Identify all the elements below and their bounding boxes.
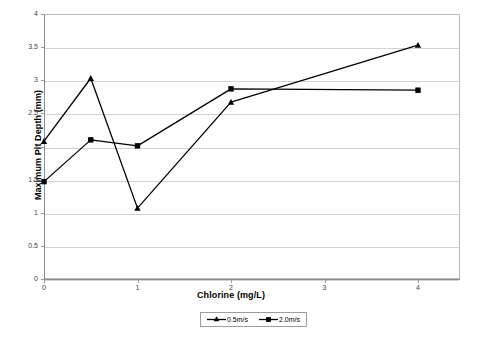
y-axis-tick-label: 2.5 xyxy=(2,109,38,117)
legend-item-series-0[interactable]: 0.5m/s xyxy=(207,315,248,324)
y-axis-tick-mark xyxy=(41,47,44,48)
x-axis-title: Chlorine (mg/L) xyxy=(44,290,418,300)
y-axis-tick-label: 4 xyxy=(2,10,38,18)
gridline xyxy=(45,81,459,82)
legend-marker-triangle-icon xyxy=(207,315,226,324)
y-axis-tick-mark xyxy=(41,246,44,247)
gridline xyxy=(45,48,459,49)
y-axis-tick-mark xyxy=(41,80,44,81)
gridline xyxy=(45,247,459,248)
y-axis-tick-label: 3.5 xyxy=(2,43,38,51)
x-axis-line xyxy=(44,279,460,280)
gridline xyxy=(45,214,459,215)
legend-item-series-1[interactable]: 2.0m/s xyxy=(259,315,300,324)
y-axis-tick-mark xyxy=(41,213,44,214)
legend-marker-square-icon xyxy=(259,315,278,324)
gridline xyxy=(45,148,459,149)
x-axis-tick-mark xyxy=(325,280,326,283)
y-axis-tick-label: 1.5 xyxy=(2,176,38,184)
y-axis-tick-label: 2 xyxy=(2,143,38,151)
legend-label-series-1: 2.0m/s xyxy=(279,316,300,324)
y-axis-tick-label: 0.5 xyxy=(2,242,38,250)
chart-container: Maximum Pit Depth (mm) 00.511.522.533.54… xyxy=(0,0,479,339)
y-axis-tick-mark xyxy=(41,180,44,181)
y-axis-tick-label: 3 xyxy=(2,76,38,84)
gridline xyxy=(45,280,459,281)
gridline xyxy=(45,181,459,182)
y-axis-tick-mark xyxy=(41,14,44,15)
y-axis-tick-label: 1 xyxy=(2,209,38,217)
chart-legend: 0.5m/s 2.0m/s xyxy=(200,312,307,327)
x-axis-tick-mark xyxy=(231,280,232,283)
y-axis-tick-label: 0 xyxy=(2,275,38,283)
y-axis-line xyxy=(44,14,45,280)
x-axis-tick-mark xyxy=(44,280,45,283)
gridline xyxy=(45,114,459,115)
legend-label-series-0: 0.5m/s xyxy=(227,316,248,324)
x-axis-tick-mark xyxy=(138,280,139,283)
y-axis-tick-mark xyxy=(41,113,44,114)
y-axis-tick-mark xyxy=(41,147,44,148)
x-axis-tick-mark xyxy=(418,280,419,283)
plot-area xyxy=(44,14,460,279)
